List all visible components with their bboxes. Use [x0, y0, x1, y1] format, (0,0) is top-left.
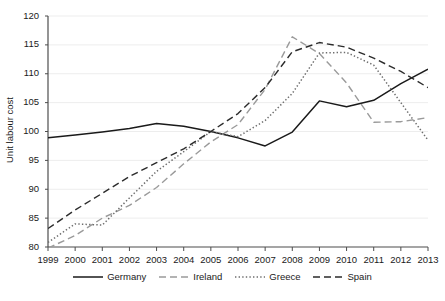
legend-label: Ireland [193, 271, 222, 282]
x-tick-label: 2001 [87, 254, 117, 265]
x-tick-label: 2004 [169, 254, 199, 265]
legend-label: Germany [107, 271, 146, 282]
x-tick-label: 2003 [142, 254, 172, 265]
legend-item-greece[interactable]: Greece [235, 271, 300, 282]
series-line-ireland [48, 37, 428, 248]
line-chart: Unit labour cost 80859095100105110115120… [0, 0, 445, 301]
axes [45, 16, 428, 251]
y-axis-title: Unit labour cost [4, 97, 15, 163]
x-tick-label: 1999 [33, 254, 63, 265]
legend-item-ireland[interactable]: Ireland [159, 271, 222, 282]
gridlines [48, 16, 428, 218]
y-tick-label: 95 [15, 154, 39, 165]
y-tick-label: 100 [15, 125, 39, 136]
series-lines [48, 37, 428, 248]
x-tick-label: 2005 [196, 254, 226, 265]
x-tick-label: 2007 [250, 254, 280, 265]
x-tick-label: 2006 [223, 254, 253, 265]
legend-swatch-germany-icon [73, 273, 103, 281]
x-tick-label: 2011 [359, 254, 389, 265]
legend-swatch-ireland-icon [159, 273, 189, 281]
y-tick-label: 80 [15, 241, 39, 252]
x-tick-label: 2013 [413, 254, 443, 265]
x-tick-label: 2008 [277, 254, 307, 265]
legend-item-spain[interactable]: Spain [313, 271, 371, 282]
y-tick-label: 105 [15, 96, 39, 107]
y-tick-label: 85 [15, 212, 39, 223]
legend-swatch-spain-icon [313, 273, 343, 281]
series-line-spain [48, 43, 428, 229]
legend-swatch-greece-icon [235, 273, 265, 281]
y-tick-label: 110 [15, 67, 39, 78]
x-tick-label: 2012 [386, 254, 416, 265]
series-line-greece [48, 52, 428, 242]
y-tick-label: 120 [15, 10, 39, 21]
x-tick-label: 2010 [332, 254, 362, 265]
legend-label: Greece [269, 271, 300, 282]
x-tick-label: 2000 [60, 254, 90, 265]
x-tick-label: 2009 [304, 254, 334, 265]
y-tick-label: 90 [15, 183, 39, 194]
x-tick-label: 2002 [114, 254, 144, 265]
legend-label: Spain [347, 271, 371, 282]
legend-item-germany[interactable]: Germany [73, 271, 146, 282]
y-tick-label: 115 [15, 38, 39, 49]
chart-legend: GermanyIrelandGreeceSpain [0, 271, 445, 282]
series-line-germany [48, 69, 428, 146]
